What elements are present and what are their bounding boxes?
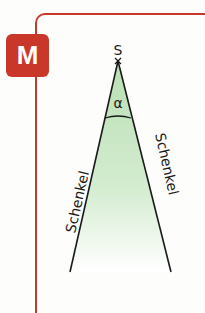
- vertex-label: S: [114, 42, 123, 58]
- angle-area: [70, 61, 171, 272]
- angle-label: α: [113, 95, 122, 111]
- right-side-label: Schenkel: [152, 131, 182, 196]
